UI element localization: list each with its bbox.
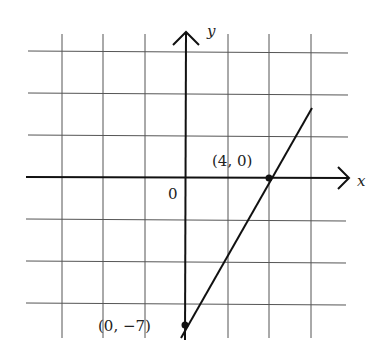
- graph-line: [181, 108, 312, 338]
- coordinate-graph: y x 0 (4, 0) (0, −7): [0, 0, 381, 356]
- x-axis: [26, 167, 349, 189]
- y-axis-label: y: [206, 22, 216, 40]
- grid: [26, 34, 348, 338]
- point-label-x-intercept: (4, 0): [212, 152, 252, 170]
- origin-label: 0: [168, 185, 178, 203]
- point-x-intercept: [266, 175, 273, 182]
- point-y-intercept: [182, 322, 189, 329]
- x-axis-label: x: [357, 172, 366, 190]
- point-label-y-intercept: (0, −7): [98, 317, 151, 335]
